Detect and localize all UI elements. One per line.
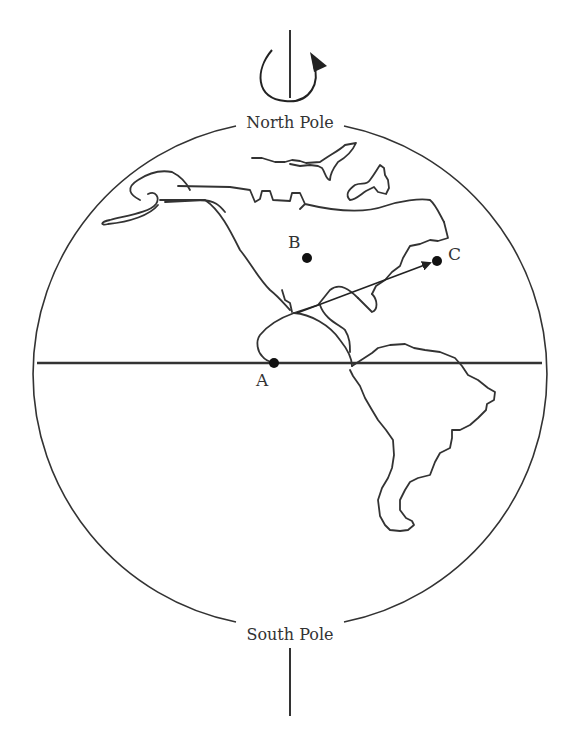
point-a-marker (269, 358, 279, 368)
rotation-arrow-icon (261, 50, 327, 101)
point-b-label: B (288, 232, 301, 252)
deflection-arrow (297, 263, 430, 313)
north-america-outline (102, 171, 448, 366)
point-c-marker (432, 256, 442, 266)
north-pole-label: North Pole (246, 113, 333, 132)
earth-diagram: North Pole South Pole (0, 0, 562, 744)
point-a-label: A (255, 370, 269, 390)
point-c-label: C (448, 244, 461, 264)
arctic-islands-outline (252, 143, 389, 200)
point-b-marker (302, 253, 312, 263)
south-pole-label: South Pole (246, 625, 333, 644)
south-america-outline (350, 344, 495, 531)
